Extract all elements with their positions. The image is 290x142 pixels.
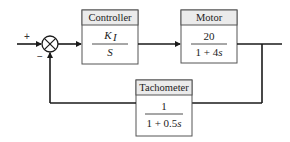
controller-denominator: S (107, 46, 113, 58)
tachometer-numerator: 1 (161, 100, 167, 112)
motor-denominator: 1 + 4s (196, 46, 223, 58)
summing-junction (42, 36, 58, 52)
motor-block: Motor 20 1 + 4s (181, 10, 237, 63)
tachometer-denominator-var: s (177, 117, 181, 129)
control-block-diagram: + − Controller K I S Motor 20 1 + 4s Tac… (0, 0, 290, 142)
tachometer-denominator: 1 + 0.5s (146, 117, 181, 129)
controller-title: Controller (88, 12, 132, 23)
minus-sign: − (37, 51, 43, 62)
motor-denominator-var: s (218, 46, 222, 58)
controller-numerator: K (103, 29, 112, 41)
controller-block: Controller K I S (82, 10, 138, 64)
plus-sign: + (24, 31, 30, 42)
motor-title: Motor (196, 12, 223, 23)
motor-numerator: 20 (204, 30, 216, 42)
tachometer-block: Tachometer 1 1 + 0.5s (136, 80, 192, 136)
tachometer-denominator-const: 1 + 0.5 (146, 117, 177, 129)
motor-denominator-const: 1 + 4 (196, 46, 219, 58)
tachometer-title: Tachometer (139, 82, 189, 93)
